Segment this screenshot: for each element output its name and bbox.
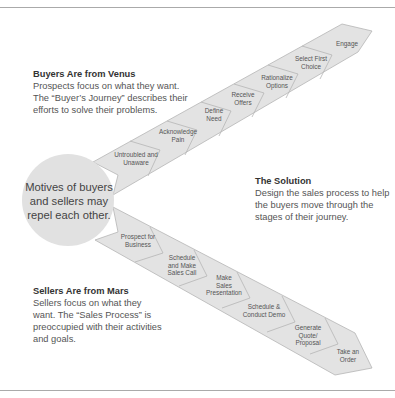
seller-stage-4: Schedule &Conduct Demo <box>243 303 286 318</box>
center-statement: Motives of buyers and sellers may repel … <box>24 180 114 222</box>
center-line-1: Motives of buyers <box>24 180 114 194</box>
center-line-3: repel each other. <box>24 208 114 222</box>
buyers-heading: Buyers Are from Venus <box>33 68 203 80</box>
solution-line-1: Design the sales process to help <box>255 187 395 199</box>
center-line-2: and sellers may <box>24 194 114 208</box>
sellers-heading: Sellers Are from Mars <box>33 285 183 297</box>
buyers-line-1: Prospects focus on what they want. <box>33 80 203 92</box>
sellers-line-2: want. The “Sales Process” is <box>33 309 183 321</box>
buyers-description: Buyers Are from Venus Prospects focus on… <box>33 68 203 116</box>
seller-stage-2: Scheduleand MakeSales Call <box>168 254 197 276</box>
solution-line-2: the buyers move through the <box>255 199 395 211</box>
buyer-stage-7: Engage <box>336 40 358 48</box>
buyers-line-3: efforts to solve their problems. <box>33 104 203 116</box>
solution-heading: The Solution <box>255 175 395 187</box>
seller-stage-1: Prospect forBusiness <box>121 233 156 248</box>
sellers-line-1: Sellers focus on what they <box>33 297 183 309</box>
solution-line-3: stages of their journey. <box>255 211 395 223</box>
buyer-stage-3: DefineNeed <box>205 107 224 122</box>
sellers-line-4: and goals. <box>33 333 183 345</box>
buyers-line-2: The “Buyer’s Journey” describes their <box>33 92 203 104</box>
sellers-description: Sellers Are from Mars Sellers focus on w… <box>33 285 183 345</box>
solution-description: The Solution Design the sales process to… <box>255 175 395 223</box>
buyer-stage-4: ReceiveOffers <box>231 91 255 106</box>
sellers-line-3: preoccupied with their activities <box>33 321 183 333</box>
